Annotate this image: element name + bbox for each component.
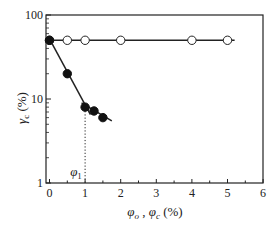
x-axis-label: φo , φc (%) [127,204,182,221]
x-tick-label: 5 [225,186,231,200]
x-tick-label: 6 [260,186,266,200]
filled-circle-marker [90,107,98,115]
y-tick-label: 100 [25,8,43,22]
y-axis-label: γc (%) [14,92,31,124]
fit-lines [50,39,235,121]
x-tick-label: 1 [82,186,88,200]
phi1-label: φ1 [70,164,82,181]
filled-circle-marker [63,70,71,78]
open-circle-marker [63,36,71,44]
open-circle-marker [223,36,231,44]
open-circle-marker [81,36,89,44]
chart: 0123456 110100 γc (%) φo , φc (%) φ1 [0,0,279,226]
filled-circle-marker [99,113,107,121]
filled-circle-marker [45,36,53,44]
x-tick-label: 0 [47,186,53,200]
filled-circle-marker [81,103,89,111]
open-circle-marker [188,36,196,44]
x-tick-label: 3 [153,186,159,200]
x-tick-label: 2 [118,186,124,200]
y-tick-label: 10 [31,92,43,106]
y-tick-label: 1 [37,176,43,190]
x-tick-label: 4 [189,186,195,200]
x-axis-ticks: 0123456 [47,179,267,200]
data-points [45,36,231,122]
open-circle-marker [117,36,125,44]
